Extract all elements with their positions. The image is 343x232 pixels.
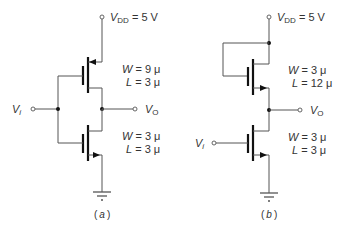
circuit-diagram: VDD = 5 V W = 9 μ L = 3 μ Vi VO — [0, 0, 343, 232]
vi-label-b: Vi — [195, 137, 204, 151]
vo-terminal-b — [298, 108, 302, 112]
vi-label-a: Vi — [12, 103, 21, 117]
vi-terminal-a — [31, 107, 35, 111]
circuit-a: VDD = 5 V W = 9 μ L = 3 μ Vi VO — [12, 11, 160, 220]
vi-terminal-b — [212, 141, 216, 145]
load-transistor-b — [248, 59, 269, 131]
ground-icon-b — [260, 193, 278, 201]
pmos-arrow-icon — [89, 59, 96, 65]
vo-label-b: VO — [310, 104, 324, 118]
load-length-label-b: L = 12 μ — [292, 77, 332, 89]
vdd-label-b: VDD = 5 V — [277, 11, 326, 25]
pmos-width-label-a: W = 9 μ — [122, 63, 160, 75]
ground-icon-a — [93, 192, 111, 200]
driver-width-label-b: W = 3 μ — [288, 131, 326, 143]
pmos-transistor-a — [58, 57, 102, 109]
caption-a: (a) — [94, 209, 110, 220]
pmos-length-label-a: L = 3 μ — [126, 76, 160, 88]
driver-length-label-b: L = 3 μ — [292, 144, 326, 156]
nmos-length-label-a: L = 3 μ — [126, 143, 160, 155]
vo-terminal-a — [133, 107, 137, 111]
nmos-width-label-a: W = 3 μ — [122, 130, 160, 142]
load-arrow-icon — [260, 85, 267, 91]
nmos-arrow-icon — [93, 152, 100, 158]
load-width-label-b: W = 3 μ — [288, 64, 326, 76]
gate-drain-loop-b — [223, 43, 269, 76]
vdd-terminal-a — [100, 15, 104, 19]
vdd-label-a: VDD = 5 V — [110, 11, 159, 25]
circuit-b: VDD = 5 V W = 3 μ L = 12 μ VO — [195, 11, 332, 220]
vdd-terminal-b — [267, 15, 271, 19]
nmos-transistor-a — [58, 109, 102, 192]
driver-transistor-b — [216, 125, 269, 193]
input-node-a — [56, 107, 60, 111]
caption-b: (b) — [261, 209, 277, 220]
vo-label-a: VO — [145, 103, 159, 117]
driver-arrow-icon — [260, 152, 267, 158]
